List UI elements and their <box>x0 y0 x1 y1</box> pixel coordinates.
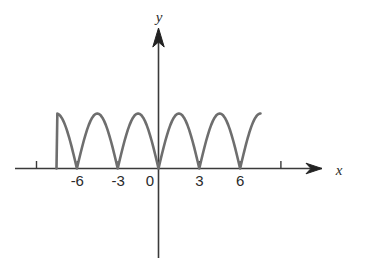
x-axis-label: x <box>335 162 343 178</box>
x-tick-label-minus3: -3 <box>111 172 124 189</box>
x-tick-label-6: 6 <box>236 172 244 189</box>
graph-figure: -6 -3 0 3 6 x y <box>0 0 373 272</box>
x-tick-label-3: 3 <box>195 172 203 189</box>
x-tick-label-zero: 0 <box>146 172 154 189</box>
y-axis-label: y <box>154 9 163 25</box>
x-tick-label-minus6: -6 <box>71 172 84 189</box>
